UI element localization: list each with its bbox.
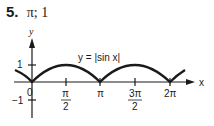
x-tick-label-2pi: 2π [164, 88, 177, 99]
x-tick-label-3pi-over-2-num: 3π [129, 88, 142, 99]
y-tick-label-1: 1 [17, 59, 23, 70]
x-tick-label-pi-over-2-den: 2 [63, 101, 69, 112]
x-tick-label-3pi-over-2-den: 2 [132, 101, 138, 112]
x-axis-label: x [199, 77, 204, 88]
y-axis-arrow-icon [29, 38, 35, 48]
function-label: y = |sin x| [78, 52, 120, 63]
sin-abs-graph: y x y = |sin x| 1 −1 0 π 2 π 3π 2 2π [0, 0, 214, 126]
y-axis-label: y [28, 26, 34, 37]
origin-label: 0 [27, 87, 33, 98]
y-tick-label-neg1: −1 [12, 95, 24, 106]
x-axis-arrow-icon [186, 79, 195, 85]
x-tick-label-pi: π [97, 88, 104, 99]
x-tick-label-pi-over-2-num: π [62, 88, 69, 99]
